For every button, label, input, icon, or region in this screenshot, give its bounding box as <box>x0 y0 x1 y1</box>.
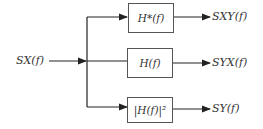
output-label-sy: SY(f) <box>212 103 239 115</box>
block-magnitude-squared: |H(f)|² <box>127 97 173 123</box>
block-label: H(f) <box>139 57 160 69</box>
block-label: |H(f)|² <box>134 104 167 116</box>
input-label: SX(f) <box>16 55 44 67</box>
block-label: H*(f) <box>138 12 165 24</box>
block-conjugate-transfer: H*(f) <box>128 3 174 33</box>
block-transfer: H(f) <box>127 48 173 78</box>
output-label-sxy: SXY(f) <box>212 11 247 23</box>
output-label-syx: SYX(f) <box>212 57 247 69</box>
